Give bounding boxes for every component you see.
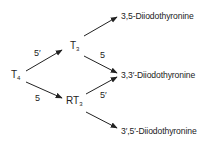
node-rt3: RT3 (66, 96, 83, 109)
product-3-5-diiodothyronine: 3,5-Diiodothyronine (121, 11, 194, 21)
arrow-t4-to-rt3 (26, 82, 62, 98)
arrow-t4-to-t3 (26, 50, 62, 71)
edge-label-t4-rt3: 5 (35, 93, 40, 103)
arrow-t3-to-35 (84, 17, 117, 36)
node-rt3-main: RT (66, 95, 79, 106)
node-t3: T3 (70, 41, 79, 54)
edge-label-t4-t3: 5′ (34, 48, 41, 58)
edge-label-rt3-33: 5′ (100, 90, 107, 100)
arrow-rt3-to-355 (86, 112, 117, 128)
node-rt3-sub: 3 (79, 101, 82, 107)
edge-label-t3-33: 5 (100, 50, 105, 60)
node-t4-sub: 4 (17, 75, 20, 81)
product-3-3prime-diiodothyronine: 3,3′-Diiodothyronine (121, 70, 195, 80)
node-t3-sub: 3 (76, 46, 79, 52)
product-3prime-5prime-diiodothyronine: 3′,5′-Diiodothyronine (121, 126, 197, 136)
node-t4: T4 (11, 70, 20, 83)
